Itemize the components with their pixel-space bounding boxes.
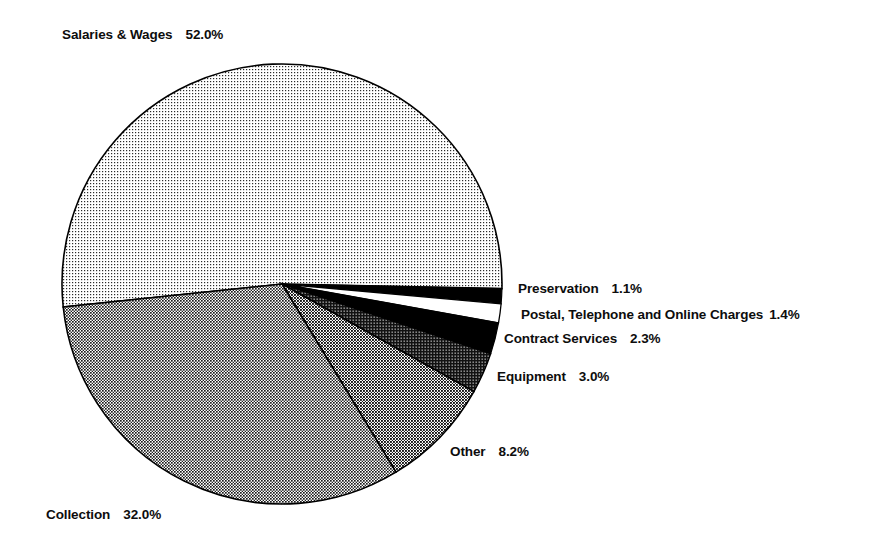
pie-chart: Salaries & Wages52.0% Preservation1.1% P…: [0, 0, 889, 547]
pie-label-collection: Collection32.0%: [46, 507, 161, 522]
pie-label-postal-telephone-online-charges-name: Postal, Telephone and Online Charges: [521, 307, 763, 322]
pie-slice-salaries-wages[interactable]: [62, 64, 502, 307]
pie-chart-canvas: [0, 0, 889, 547]
pie-label-preservation-name: Preservation: [518, 281, 599, 296]
pie-label-contract-services-value: 2.3%: [630, 331, 660, 346]
pie-label-preservation-value: 1.1%: [612, 281, 642, 296]
pie-label-collection-name: Collection: [46, 507, 110, 522]
pie-slices: [62, 64, 502, 504]
pie-label-preservation: Preservation1.1%: [518, 281, 642, 296]
pie-label-collection-value: 32.0%: [123, 507, 161, 522]
pie-label-equipment: Equipment3.0%: [497, 369, 609, 384]
pie-label-equipment-value: 3.0%: [579, 369, 609, 384]
pie-label-contract-services-name: Contract Services: [504, 331, 617, 346]
pie-label-other-value: 8.2%: [499, 444, 529, 459]
pie-label-salaries-wages-value: 52.0%: [185, 27, 223, 42]
pie-label-other: Other8.2%: [450, 444, 529, 459]
pie-label-salaries-wages: Salaries & Wages52.0%: [62, 27, 223, 42]
pie-label-postal-telephone-online-charges: Postal, Telephone and Online Charges1.4%: [521, 307, 800, 322]
pie-label-salaries-wages-name: Salaries & Wages: [62, 27, 172, 42]
pie-label-other-name: Other: [450, 444, 486, 459]
pie-label-contract-services: Contract Services2.3%: [504, 331, 660, 346]
pie-label-equipment-name: Equipment: [497, 369, 566, 384]
pie-label-postal-telephone-online-charges-value: 1.4%: [769, 307, 799, 322]
